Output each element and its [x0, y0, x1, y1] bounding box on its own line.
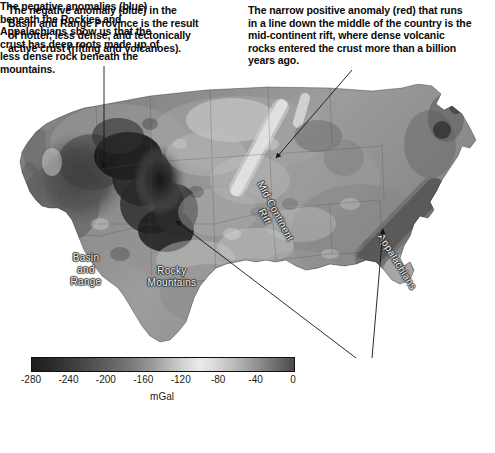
colorbar-tick-0: -280: [21, 374, 41, 385]
annotation-crustal-roots: The negative anomalies (blue) beneath th…: [0, 0, 159, 76]
colorbar-tick-5: -80: [211, 374, 225, 385]
colorbar-tick-3: -160: [133, 374, 153, 385]
colorbar: -280 -240 -200 -160 -120 -80 -40 0 mGal: [31, 357, 293, 402]
map-raster-svg: [0, 84, 495, 349]
annotation-mid-continent-rift: The narrow positive anomaly (red) that r…: [248, 4, 492, 67]
colorbar-gradient: [31, 357, 295, 372]
colorbar-unit-label: mGal: [31, 391, 293, 402]
colorbar-tick-4: -120: [171, 374, 191, 385]
colorbar-tick-1: -240: [58, 374, 78, 385]
colorbar-ticks: -280 -240 -200 -160 -120 -80 -40 0: [31, 374, 293, 390]
colorbar-tick-2: -200: [96, 374, 116, 385]
colorbar-tick-7: 0: [290, 374, 296, 385]
colorbar-tick-6: -40: [248, 374, 262, 385]
gravity-anomaly-figure: The negative anomaly (blue) in the Basin…: [0, 0, 495, 453]
gravity-anomaly-map: Basin and Range Rocky Mountains Mid-Cont…: [0, 84, 495, 349]
